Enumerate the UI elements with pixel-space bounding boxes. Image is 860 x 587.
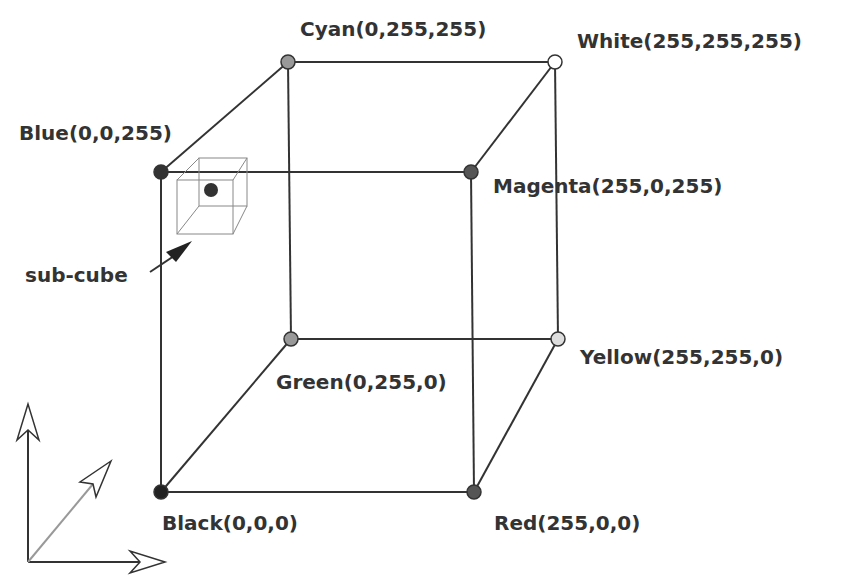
edge-blue-cyan xyxy=(161,62,288,172)
subcube-point xyxy=(204,183,218,197)
edge-black-green xyxy=(161,339,291,492)
label-blue: Blue(0,0,255) xyxy=(19,121,172,145)
axes-indicator xyxy=(17,404,165,573)
vertex-blue xyxy=(154,165,168,179)
vertex-white xyxy=(548,55,562,69)
axis-diagonal xyxy=(28,478,98,562)
vertex-green xyxy=(284,332,298,346)
label-black: Black(0,0,0) xyxy=(162,511,298,535)
subcube-arrow xyxy=(150,241,192,272)
label-magenta: Magenta(255,0,255) xyxy=(493,174,722,198)
subcube-label: sub-cube xyxy=(25,263,128,287)
label-white: White(255,255,255) xyxy=(577,29,802,53)
label-yellow: Yellow(255,255,0) xyxy=(579,345,783,369)
vertex-magenta xyxy=(464,165,478,179)
vertex-cyan xyxy=(281,55,295,69)
axis-diagonal-arrowhead-icon xyxy=(80,461,111,497)
vertex-red xyxy=(467,485,481,499)
edge-magenta-white xyxy=(471,62,555,172)
vertex-black xyxy=(154,485,168,499)
vertex-yellow xyxy=(551,332,565,346)
label-green: Green(0,255,0) xyxy=(276,370,447,394)
cube-edges xyxy=(161,62,558,492)
edge-red-magenta xyxy=(471,172,474,492)
rgb-cube-diagram: sub-cube Black(0,0,0) Red(255,0,0) Green… xyxy=(0,0,860,587)
cube-vertices xyxy=(154,55,565,499)
edge-yellow-white xyxy=(555,62,558,339)
label-red: Red(255,0,0) xyxy=(494,511,640,535)
label-cyan: Cyan(0,255,255) xyxy=(300,17,486,41)
edge-red-yellow xyxy=(474,339,558,492)
edge-green-cyan xyxy=(288,62,291,339)
